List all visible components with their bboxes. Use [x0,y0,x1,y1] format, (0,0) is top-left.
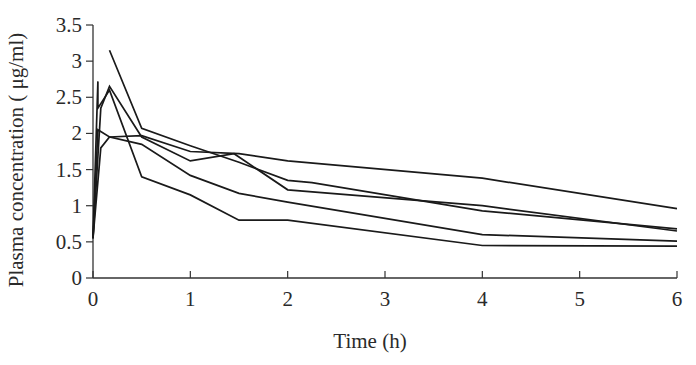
x-tick-label: 2 [282,287,293,311]
y-tick-label: 1 [72,194,83,218]
y-tick-label: 2.5 [56,85,82,109]
x-axis: 0123456 [88,271,683,311]
y-tick-label: 3.5 [56,13,82,37]
series-line-5 [110,50,678,229]
y-axis-title: Plasma concentration ( μg/ml) [4,33,28,287]
x-tick-label: 3 [380,287,391,311]
pharmacokinetic-line-chart: 00.511.522.533.5 0123456 Time (h) Plasma… [0,0,696,365]
y-tick-label: 3 [72,49,83,73]
y-tick-label: 0 [72,266,83,290]
x-axis-title: Time (h) [333,329,406,353]
x-tick-label: 1 [185,287,196,311]
series-line-3 [93,130,677,238]
y-tick-label: 0.5 [56,230,82,254]
y-tick-label: 2 [72,121,83,145]
series-line-4 [93,137,677,241]
x-tick-label: 4 [477,287,488,311]
y-tick-label: 1.5 [56,158,82,182]
x-tick-label: 0 [88,287,99,311]
y-axis: 00.511.522.533.5 [56,13,93,290]
series-line-2 [93,86,677,238]
plot-lines [93,50,677,246]
x-tick-label: 6 [672,287,683,311]
x-tick-label: 5 [574,287,585,311]
